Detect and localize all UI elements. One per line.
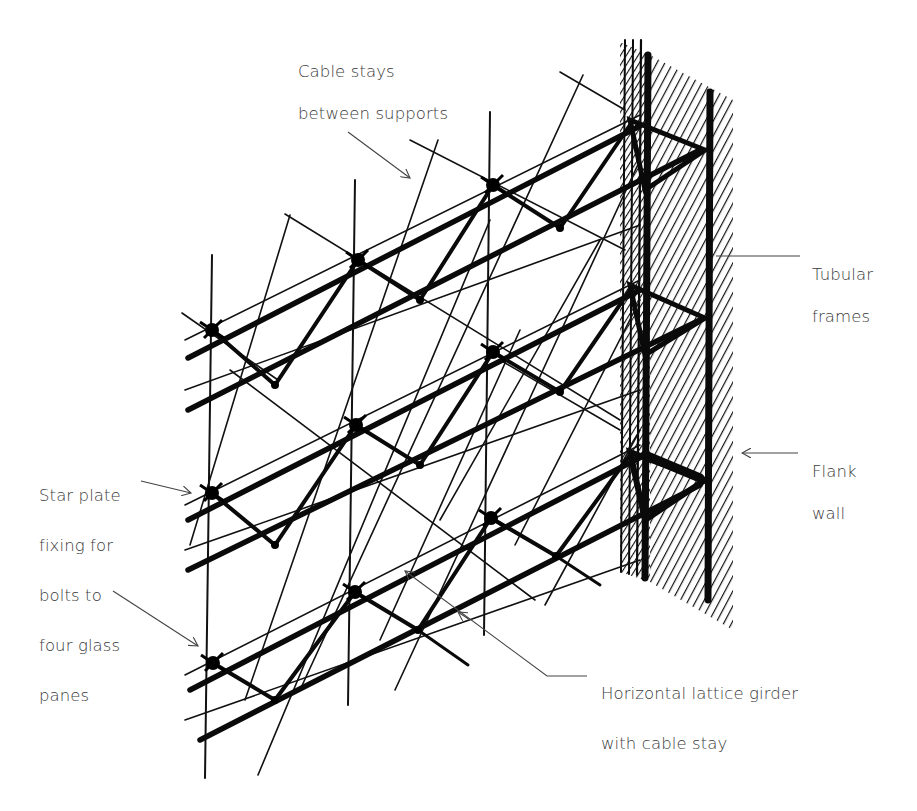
- label-line: Tubular: [812, 264, 873, 285]
- label-line: four glass: [39, 633, 121, 658]
- leader-lattice-girder-branch: [458, 612, 470, 620]
- label-line: Flank: [812, 461, 857, 482]
- star-plate-node: [201, 653, 225, 671]
- star-plate-node: [479, 508, 503, 526]
- leader-star-plate-lower: [113, 591, 198, 646]
- label-line: Horizontal lattice girder: [601, 681, 798, 706]
- label-tubular-frames: Tubular frames: [812, 243, 873, 348]
- label-line: panes: [39, 683, 121, 708]
- label-line: Star plate: [39, 483, 121, 508]
- label-line: with cable stay: [601, 731, 798, 756]
- label-line: fixing for: [39, 533, 121, 558]
- star-plate-node: [343, 582, 367, 600]
- label-line: bolts to: [39, 583, 121, 608]
- label-star-plate: Star plate fixing for bolts to four glas…: [39, 458, 121, 733]
- label-line: frames: [812, 306, 873, 327]
- label-line: wall: [812, 503, 857, 524]
- cable-stays: [182, 72, 640, 775]
- frame-post-rear: [708, 92, 710, 600]
- label-line: between supports: [298, 103, 448, 124]
- frame-post-front: [645, 55, 648, 578]
- label-flank-wall: Flank wall: [812, 440, 857, 545]
- leader-star-plate-upper: [141, 481, 191, 493]
- label-lattice-girder: Horizontal lattice girder with cable sta…: [601, 656, 798, 781]
- label-cable-stays: Cable stays between supports: [298, 40, 448, 145]
- label-line: Cable stays: [298, 61, 448, 82]
